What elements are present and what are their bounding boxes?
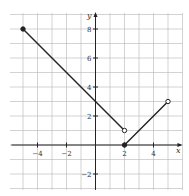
x-tick-label: 4: [151, 150, 156, 158]
ticks: −4−224−22468: [32, 26, 156, 179]
y-tick-label: 6: [87, 55, 92, 63]
axes: [11, 12, 182, 190]
x-tick-label: −2: [61, 150, 71, 158]
open-endpoint-icon: [166, 99, 170, 103]
piecewise-graph: −4−224−22468 x y: [0, 0, 189, 196]
line-segment: [23, 29, 125, 131]
line-segment: [125, 102, 169, 146]
x-axis-label: x: [176, 146, 181, 155]
y-tick-label: 8: [87, 26, 91, 34]
y-tick-label: −2: [81, 171, 91, 179]
closed-endpoint-icon: [122, 143, 126, 147]
x-tick-label: −4: [32, 150, 43, 158]
open-endpoint-icon: [122, 128, 126, 132]
closed-endpoint-icon: [21, 27, 25, 31]
y-tick-label: 4: [87, 84, 92, 92]
y-tick-label: 2: [87, 113, 91, 121]
y-axis-label: y: [86, 11, 92, 20]
x-tick-label: 2: [122, 150, 126, 158]
